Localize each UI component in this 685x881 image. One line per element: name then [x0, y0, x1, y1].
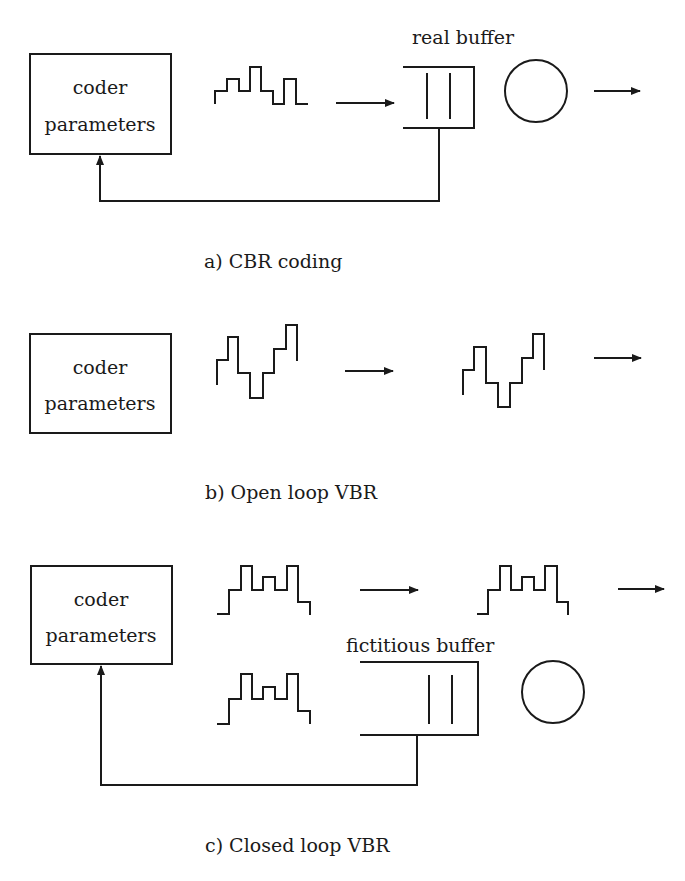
caption-c: c) Closed loop VBR — [205, 834, 390, 856]
rate-control-diagram: coder parameters real buffer a) CBR codi… — [0, 0, 685, 881]
fictitious-buffer — [360, 662, 478, 735]
feedback-loop-a — [100, 128, 439, 201]
server-circle-c — [522, 661, 584, 723]
coder-parameters-box-c — [31, 566, 172, 664]
server-circle-a — [505, 60, 567, 122]
real-buffer — [403, 67, 474, 128]
parameters-label-a: parameters — [45, 113, 156, 135]
panel-c-closed-loop: coder parameters fictitious buffer c) Cl… — [31, 566, 664, 856]
panel-a-cbr: coder parameters real buffer a) CBR codi… — [30, 26, 640, 272]
feedback-loop-c — [101, 666, 417, 785]
vbr-bitstream-waveform-output — [463, 334, 544, 407]
caption-a: a) CBR coding — [204, 250, 342, 272]
coder-parameters-box-b — [30, 334, 171, 433]
real-buffer-label: real buffer — [412, 26, 515, 48]
coder-label-a: coder — [73, 76, 128, 98]
panel-b-open-loop: coder parameters b) Open loop VBR — [30, 325, 641, 503]
vbr-bitstream-waveform-input — [217, 325, 297, 398]
coder-label-b: coder — [73, 356, 128, 378]
vbr-bitstream-waveform-buffer-copy — [217, 674, 310, 724]
coder-label-c: coder — [74, 588, 129, 610]
coder-parameters-box-a — [30, 54, 171, 154]
parameters-label-b: parameters — [45, 392, 156, 414]
vbr-bitstream-waveform-input-c — [217, 566, 310, 615]
cbr-bitstream-waveform — [215, 67, 308, 104]
vbr-bitstream-waveform-output-c — [477, 566, 568, 615]
caption-b: b) Open loop VBR — [205, 481, 378, 503]
parameters-label-c: parameters — [46, 624, 157, 646]
fictitious-buffer-label: fictitious buffer — [346, 634, 495, 656]
